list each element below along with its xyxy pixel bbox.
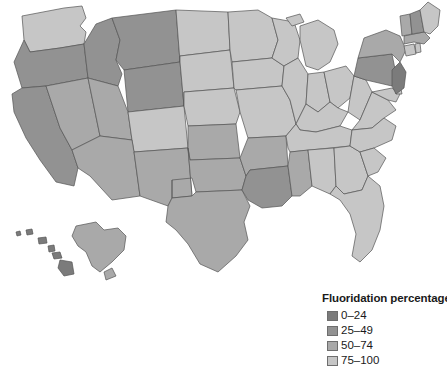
- legend-label-1: 25–49: [341, 325, 373, 337]
- state-MS: [288, 150, 312, 196]
- fluoridation-choropleth-map: Fluoridation percentage 0–24 25–49 50–74…: [0, 0, 447, 379]
- state-MT: [112, 10, 180, 70]
- legend-label-2: 50–74: [341, 340, 373, 352]
- legend-swatch-0: [327, 311, 338, 321]
- state-AL: [308, 148, 336, 194]
- state-NE: [184, 88, 240, 126]
- map-legend: Fluoridation percentage 0–24 25–49 50–74…: [322, 292, 447, 368]
- state-AZ: [72, 136, 140, 200]
- state-CO: [128, 106, 188, 152]
- legend-swatch-3: [327, 356, 338, 366]
- state-LA: [242, 166, 292, 208]
- state-KS: [188, 124, 240, 160]
- legend-item-2: 50–74: [327, 338, 447, 353]
- us-states-map: [0, 0, 447, 300]
- state-TX: [166, 190, 250, 272]
- state-RI: [415, 43, 421, 53]
- legend-item-1: 25–49: [327, 323, 447, 338]
- state-CT: [404, 44, 416, 56]
- legend-swatch-1: [327, 326, 338, 336]
- state-IA: [232, 58, 284, 90]
- legend-item-0: 0–24: [327, 308, 447, 323]
- legend-title: Fluoridation percentage: [322, 292, 447, 304]
- states-layer: [12, 2, 440, 280]
- state-MN: [228, 10, 278, 62]
- state-AK: [72, 222, 126, 280]
- legend-label-3: 75–100: [341, 355, 379, 367]
- legend-label-0: 0–24: [341, 310, 367, 322]
- state-WY: [124, 62, 184, 112]
- state-HI: [16, 229, 74, 276]
- legend-item-3: 75–100: [327, 353, 447, 368]
- legend-swatch-2: [327, 341, 338, 351]
